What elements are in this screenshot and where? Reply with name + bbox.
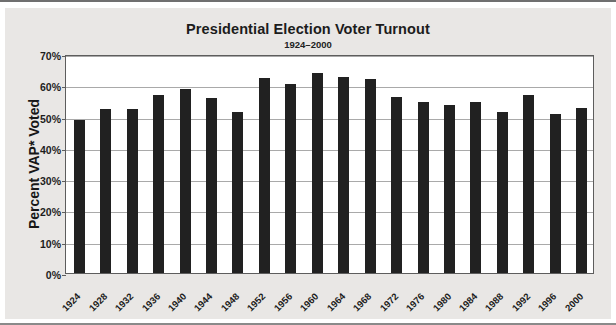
y-tick-label: 0% bbox=[46, 269, 61, 281]
x-axis-tick-labels: 1924192819321936194019441948195219561960… bbox=[65, 276, 594, 318]
x-tick-label: 1928 bbox=[86, 291, 109, 314]
x-tick-label: 1964 bbox=[324, 291, 347, 314]
chart-subtitle: 1924–2000 bbox=[5, 39, 611, 50]
x-tick-label: 1936 bbox=[139, 291, 162, 314]
y-tick-label: 10% bbox=[40, 238, 61, 250]
x-tick-label: 1996 bbox=[536, 291, 559, 314]
x-tick-label: 1988 bbox=[483, 291, 506, 314]
y-tick-label: 70% bbox=[40, 50, 61, 62]
bar-1956 bbox=[285, 84, 296, 273]
x-tick-label: 1984 bbox=[457, 291, 480, 314]
bar-1988 bbox=[497, 112, 508, 273]
x-tick-label: 1980 bbox=[430, 291, 453, 314]
y-axis-title: Percent VAP* Voted bbox=[26, 64, 42, 264]
x-tick-label: 2000 bbox=[562, 291, 585, 314]
x-tick-label: 1992 bbox=[509, 291, 532, 314]
bar-1976 bbox=[418, 102, 429, 273]
bar-1944 bbox=[206, 98, 217, 273]
plot-area: 70%60%50%40%30%20%10%0% bbox=[65, 55, 594, 274]
x-tick-label: 1956 bbox=[271, 291, 294, 314]
bar-1932 bbox=[127, 109, 138, 273]
bars-layer bbox=[66, 56, 593, 273]
chart-canvas: Presidential Election Voter Turnout 1924… bbox=[5, 8, 611, 319]
x-tick-label: 1948 bbox=[219, 291, 242, 314]
bar-1980 bbox=[444, 105, 455, 273]
x-tick-label: 1952 bbox=[245, 291, 268, 314]
x-tick-label: 1940 bbox=[166, 291, 189, 314]
bar-1952 bbox=[259, 78, 270, 273]
x-tick-label: 1924 bbox=[60, 291, 83, 314]
bar-1924 bbox=[74, 120, 85, 273]
x-tick-label: 1944 bbox=[192, 291, 215, 314]
y-tick-label: 50% bbox=[40, 113, 61, 125]
bar-1948 bbox=[232, 112, 243, 273]
x-tick-label: 1976 bbox=[404, 291, 427, 314]
bar-1960 bbox=[312, 73, 323, 273]
x-tick-label: 1960 bbox=[298, 291, 321, 314]
bar-2000 bbox=[576, 108, 587, 273]
chart-figure: Presidential Election Voter Turnout 1924… bbox=[0, 0, 616, 325]
x-tick-label: 1972 bbox=[377, 291, 400, 314]
bar-1940 bbox=[180, 89, 191, 273]
y-tick-label: 20% bbox=[40, 206, 61, 218]
x-tick-label: 1968 bbox=[351, 291, 374, 314]
bar-1984 bbox=[470, 102, 481, 273]
y-tick-label: 40% bbox=[40, 144, 61, 156]
bar-1996 bbox=[550, 114, 561, 273]
bar-1992 bbox=[523, 95, 534, 273]
y-tick-label: 30% bbox=[40, 175, 61, 187]
bar-1928 bbox=[100, 109, 111, 273]
chart-title: Presidential Election Voter Turnout bbox=[5, 21, 611, 37]
x-tick-label: 1932 bbox=[113, 291, 136, 314]
bar-1972 bbox=[391, 97, 402, 273]
bar-1968 bbox=[365, 79, 376, 273]
y-tick-label: 60% bbox=[40, 81, 61, 93]
bar-1964 bbox=[338, 77, 349, 273]
bar-1936 bbox=[153, 95, 164, 273]
